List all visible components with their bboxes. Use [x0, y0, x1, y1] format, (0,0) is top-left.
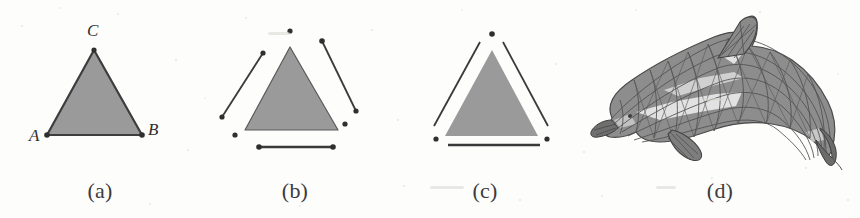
figure-container: A B C (a) (b) — [0, 0, 860, 218]
edge-bottom-endpoint-right — [330, 144, 336, 150]
vertex-dot-c — [91, 47, 96, 52]
triangle-filled-abc — [47, 50, 142, 135]
vertex-dot-offset-left — [433, 136, 438, 141]
vertex-label-c: C — [87, 21, 98, 41]
edge-right-endpoint-top — [319, 38, 325, 44]
vertex-label-a: A — [29, 126, 39, 146]
edge-left-endpoint-top — [260, 50, 265, 55]
panel-d: (d) — [580, 0, 860, 218]
vertex-label-b: B — [148, 120, 158, 140]
vertex-dot-offset-top — [489, 31, 495, 37]
edge-right-endpoint-bottom — [353, 108, 358, 113]
caption-d: (d) — [580, 178, 860, 204]
vertex-dot-a — [44, 132, 50, 138]
vertex-dot-detached-right — [342, 121, 347, 126]
vertex-dot-offset-right — [544, 136, 549, 141]
triangle-face-offset — [445, 50, 538, 136]
vertex-dot-b — [139, 132, 145, 138]
panel-a: A B C (a) — [0, 0, 200, 218]
vertex-dot-detached-top — [287, 28, 292, 33]
panel-a-canvas — [0, 0, 200, 175]
panel-c-canvas — [390, 0, 580, 175]
dolphin-mesh — [591, 16, 842, 170]
edge-right-detached — [322, 41, 356, 111]
caption-b: (b) — [200, 178, 390, 204]
panel-c: (c) — [390, 0, 580, 218]
panel-b: (b) — [200, 0, 390, 218]
dolphin-eye — [628, 114, 632, 118]
caption-a: (a) — [0, 178, 200, 204]
edge-left-endpoint-bottom — [219, 114, 224, 119]
panel-b-canvas — [200, 0, 390, 175]
panel-d-canvas — [580, 0, 860, 175]
vertex-dot-detached-left — [232, 132, 237, 137]
edge-bottom-endpoint-left — [256, 144, 262, 150]
caption-c: (c) — [390, 178, 580, 204]
